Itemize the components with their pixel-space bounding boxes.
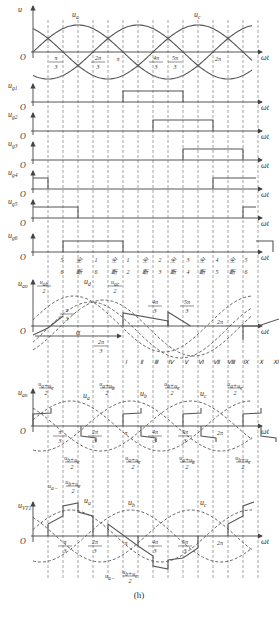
phase-voltage-panel-origin: O: [20, 53, 26, 62]
conduction-bottom: 2: [127, 269, 130, 275]
uan-bottom-annotation-den: 2: [71, 464, 74, 470]
conduction-bottom: 断: [199, 268, 206, 275]
tick-label: 2π: [215, 56, 222, 62]
uvt1-pi3-num: π: [63, 539, 67, 545]
uvt1-panel-origin: O: [20, 537, 26, 546]
gate-omega-t: ωt: [261, 132, 270, 141]
conduction-bottom: 6: [95, 269, 98, 275]
gate-label-u_g1: ug1: [8, 81, 18, 91]
uao-5pi3-den: 3: [185, 308, 189, 314]
uan-label-ub: ub: [140, 389, 147, 399]
uao-2pi: 2π: [217, 319, 224, 325]
uan-label-uc: uc: [200, 389, 207, 399]
uvt1-2pi: 2π: [217, 540, 224, 546]
gate-omega-t: ωt: [261, 161, 270, 170]
gate-pulse: [213, 178, 256, 189]
tick-fraction-num: 2π: [95, 55, 102, 61]
figure-caption: (h): [134, 590, 145, 600]
interval-label-9: Ⅸ: [243, 359, 250, 365]
uvt1-5pi3-den: 3: [183, 548, 187, 554]
tick-fraction-num: 5π: [172, 55, 179, 61]
uvt1-trace: [228, 502, 254, 536]
conduction-top: 5: [245, 257, 248, 263]
uvt1-4pi3-num: 4π: [152, 539, 159, 545]
interval-label-1: Ⅰ: [125, 359, 128, 365]
waveforms: Oωtuuaucπ32π3π4π35π32πOωtug1Oωtug2Oωtug3…: [8, 5, 279, 584]
uac-half-label-den: 2: [114, 288, 117, 294]
uan-panel-y-label: uan: [18, 388, 28, 398]
gate-omega-t: ωt: [261, 219, 270, 228]
uvt1-2pi3-den: 3: [93, 548, 97, 554]
uao-panel-omega-t-label: ωt: [261, 327, 270, 336]
conduction-top: 全: [111, 256, 118, 263]
conduction-top: 全: [142, 256, 149, 263]
conduction-bottom: 5: [216, 269, 219, 275]
conduction-top: 3: [186, 257, 190, 263]
conduction-top: 2: [159, 257, 162, 263]
gate-origin: O: [20, 190, 26, 199]
tick-fraction-num: π: [54, 55, 58, 61]
uvt1-top-annotation-prefix: ua−: [48, 483, 58, 491]
tick-fraction-num: 4π: [153, 55, 160, 61]
uan-top-annotation-den: 2: [45, 390, 48, 396]
uan-bottom-annotation-den: 2: [186, 464, 189, 470]
uao-panel-origin: O: [20, 327, 26, 336]
gate-omega-t: ωt: [261, 190, 270, 199]
tick-label: π: [116, 56, 120, 62]
uvt1-bottom-annotation-den: 2: [129, 578, 132, 584]
conduction-bottom: 断: [76, 268, 83, 275]
interval-label-5: Ⅴ: [184, 359, 190, 365]
uan-panel-omega-t-label: ωt: [261, 427, 270, 436]
curve-label-u_c: uc: [194, 10, 201, 20]
interval-label-4: Ⅳ: [168, 359, 175, 365]
uan-pi3-num: π: [58, 429, 62, 435]
conduction-top: 全: [170, 256, 177, 263]
uan-4pi3-den: 3: [153, 438, 157, 444]
gate-pulse: [256, 241, 273, 252]
uao-2pi3-num: 2π: [98, 339, 105, 345]
gate-origin: O: [20, 103, 26, 112]
gate-label-u_g4: ug4: [8, 168, 18, 178]
interval-label-2: Ⅱ: [140, 359, 144, 365]
interval-label-3: Ⅲ: [154, 359, 159, 365]
gate-label-u_g5: ug5: [8, 197, 18, 207]
uan-pi: π: [124, 430, 128, 436]
gate-origin: O: [20, 253, 26, 262]
curve-label-u_a: ua: [72, 10, 79, 20]
gate-omega-t: ωt: [261, 253, 270, 262]
uan-panel-origin: O: [20, 427, 26, 436]
conduction-top: 全: [199, 256, 206, 263]
waveform-canvas: Oωtuuaucπ32π3π4π35π32πOωtug1Oωtug2Oωtug3…: [0, 0, 279, 618]
tick-fraction-den: 3: [96, 64, 100, 70]
uvt1-top-annotation-den: 2: [72, 488, 75, 494]
gate-origin: O: [20, 219, 26, 228]
interval-label-8: Ⅷ: [227, 359, 236, 365]
conduction-bottom: 断: [229, 268, 236, 275]
conduction-top: 4: [216, 257, 219, 263]
uan-top-annotation-den: 2: [234, 390, 237, 396]
interval-label-6: Ⅵ: [198, 359, 205, 365]
uvt1-pi: π: [124, 540, 128, 546]
conduction-bottom: 断: [142, 268, 149, 275]
uvt1-2pi3-num: 2π: [92, 539, 99, 545]
conduction-bottom: 断: [170, 268, 177, 275]
ud-label: ud: [84, 277, 91, 287]
conduction-top: 1: [127, 257, 130, 263]
gate-label-u_g3: ug3: [8, 139, 18, 149]
three-phase-inverter-waveform-diagram: Oωtuuaucπ32π3π4π35π32πOωtug1Oωtug2Oωtug3…: [0, 0, 279, 618]
uan-2pi3-num: 2π: [92, 429, 99, 435]
conduction-bottom: 3: [158, 269, 162, 275]
gate-omega-t: ωt: [261, 103, 270, 112]
uan-5pi3-den: 3: [183, 438, 187, 444]
interval-label-7: Ⅶ: [213, 359, 221, 365]
uan-4pi3-num: 4π: [152, 429, 159, 435]
uao-2pi3-den: 3: [99, 348, 103, 354]
uvt1-label-ua: ua: [84, 496, 91, 506]
uao-4pi3-den: 3: [153, 308, 157, 314]
uvt1-bottom-annotation-prefix: ua−: [105, 573, 115, 581]
tick-fraction-den: 3: [154, 64, 158, 70]
uao-pi3-den: 3: [65, 316, 69, 322]
uao-panel-y-label: uao: [18, 279, 28, 289]
gate-pulse: [33, 178, 48, 189]
uao-4pi3-num: 4π: [152, 299, 159, 305]
